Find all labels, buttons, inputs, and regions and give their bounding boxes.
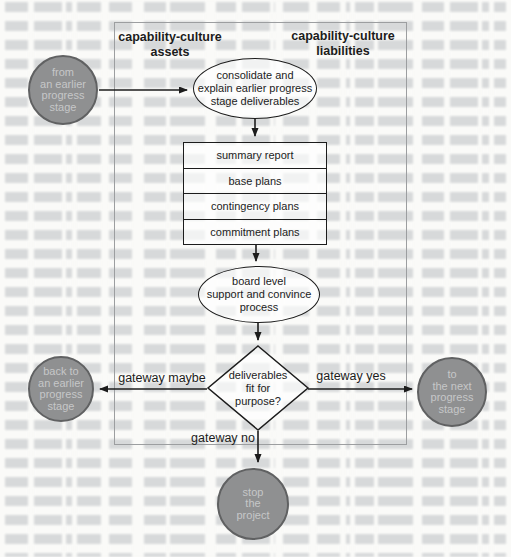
row-commitment-plans: commitment plans: [184, 219, 326, 245]
label-line: support and convince: [207, 288, 312, 301]
gateway-no-label: gateway no: [135, 431, 255, 445]
node-back-to-earlier-progress-stage: back to an earlier progress stage: [28, 356, 94, 422]
label-line: project: [236, 510, 269, 522]
label-line: from: [40, 67, 86, 79]
label-line: progress: [40, 90, 86, 102]
gateway-maybe-label: gateway maybe: [102, 371, 222, 385]
row-base-plans: base plans: [184, 168, 326, 194]
label-line: purpose?: [208, 395, 308, 408]
label-line: stage: [38, 401, 84, 413]
label-line: progress: [38, 389, 84, 401]
circle-label: stop the project: [236, 487, 269, 522]
deliverables-stack: summary report base plans contingency pl…: [183, 142, 327, 245]
label-line: explain earlier progress: [198, 82, 312, 95]
label-line: to: [431, 369, 474, 381]
scanned-page: capability-culture assets capability-cul…: [0, 0, 511, 557]
label-line: consolidate and: [198, 69, 312, 82]
node-from-earlier-progress-stage: from an earlier progress stage: [28, 55, 98, 125]
gateway-yes-label: gateway yes: [291, 369, 411, 383]
label-line: progress: [431, 392, 474, 404]
row-contingency-plans: contingency plans: [184, 193, 326, 219]
label-line: process: [207, 301, 312, 314]
label-line: stage deliverables: [198, 95, 312, 108]
circle-label: back to an earlier progress stage: [38, 366, 84, 412]
label-line: stage: [40, 102, 86, 114]
node-stop-the-project: stop the project: [217, 468, 289, 540]
label-line: stage: [431, 404, 474, 416]
circle-label: to the next progress stage: [431, 369, 474, 415]
node-consolidate-explain-deliverables: consolidate and explain earlier progress…: [193, 58, 317, 119]
ellipse-label: consolidate and explain earlier progress…: [198, 69, 312, 108]
label-line: fit for: [208, 382, 308, 395]
label-line: board level: [207, 275, 312, 288]
node-board-level-support: board level support and convince process: [198, 266, 320, 323]
circle-label: from an earlier progress stage: [40, 67, 86, 113]
label-line: back to: [38, 366, 84, 378]
ellipse-label: board level support and convince process: [207, 275, 312, 314]
row-summary-report: summary report: [184, 143, 326, 168]
node-to-next-progress-stage: to the next progress stage: [417, 357, 487, 427]
